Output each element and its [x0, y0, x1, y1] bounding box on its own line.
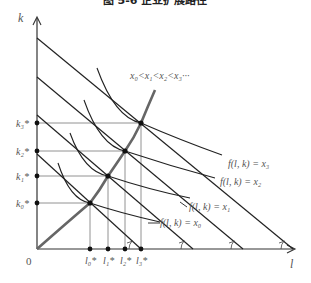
- l2-label: l₂*: [120, 255, 131, 266]
- isoquant-x3: [97, 68, 222, 155]
- l0-label: l₀*: [85, 255, 96, 266]
- axis-tick-dots: [35, 121, 144, 252]
- l-axis-label: l: [290, 257, 294, 271]
- isoquant-x0: [58, 163, 160, 222]
- k3-label: k₃*: [16, 118, 29, 129]
- isoquant-label-x2: f(l, k) = x₂: [220, 176, 262, 188]
- ordering-annotation: x₀<x₁<x₂<x₃···: [129, 70, 189, 81]
- k0-label: k₀*: [16, 198, 29, 209]
- isoquant-label-x1: f(l, k) = x₁: [189, 201, 230, 213]
- isoquant-x2: [84, 100, 215, 178]
- guide-lines: [37, 123, 141, 249]
- figure-title: 图 5-6 企业扩展路径: [103, 0, 208, 7]
- k1-label: k₁*: [16, 171, 29, 182]
- isoquant-label-x3: f(l, k) = x₃: [228, 158, 270, 170]
- isoquant-label-x0: f(l, k) = x₀: [160, 217, 202, 229]
- l3-label: l₃*: [136, 255, 147, 266]
- angle-marks: [127, 241, 285, 249]
- expansion-path-diagram: 图 5-6 企业扩展路径 k l 0: [0, 0, 311, 283]
- k2-label: k₂*: [16, 146, 29, 157]
- k-axis-label: k: [18, 11, 24, 25]
- origin-label: 0: [26, 255, 32, 267]
- l1-label: l₁*: [103, 255, 114, 266]
- isoquant-curves: [58, 68, 222, 222]
